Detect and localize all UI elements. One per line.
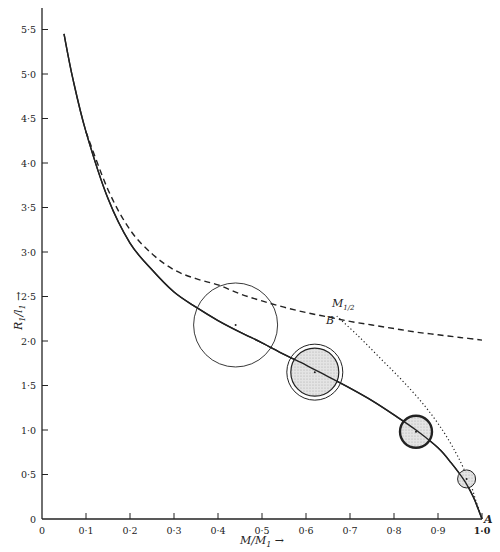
x-tick-label: 0 xyxy=(39,525,45,536)
y-tick-label: 1·5 xyxy=(21,380,36,391)
chart: 00·10·20·30·40·50·60·70·80·91·000·51·01·… xyxy=(0,0,500,552)
y-tick-label: 3·0 xyxy=(21,247,36,258)
x-tick-label: 0·4 xyxy=(210,525,225,536)
y-tick-label: 0·5 xyxy=(21,469,36,480)
axes: 00·10·20·30·40·50·60·70·80·91·000·51·01·… xyxy=(21,8,491,536)
circles xyxy=(64,34,482,519)
svg-text:R1/l1 →: R1/l1 → xyxy=(12,292,27,331)
annotation-b: B xyxy=(325,314,334,327)
annotation-m-half: M1/2 xyxy=(331,297,355,312)
y-tick-label: 1·0 xyxy=(21,425,36,436)
circle-center-dot xyxy=(466,478,468,480)
x-tick-label: 0·3 xyxy=(166,525,181,536)
x-axis-title: M/M1 → xyxy=(239,534,284,549)
circle-center-dot xyxy=(235,324,237,326)
x-tick-label: 0·2 xyxy=(122,525,137,536)
y-tick-label: 5·0 xyxy=(21,69,36,80)
y-tick-label: 2·0 xyxy=(21,336,36,347)
x-tick-label: 0·8 xyxy=(386,525,401,536)
y-tick-label: 4·5 xyxy=(21,113,36,124)
y-tick-label: 0 xyxy=(30,514,36,525)
dashed-curve xyxy=(86,132,482,340)
circle-center-dot xyxy=(314,371,316,373)
y-tick-label: 4·0 xyxy=(21,158,36,169)
x-tick-label: 0·1 xyxy=(78,525,93,536)
x-tick-label: 0·6 xyxy=(298,525,313,536)
y-tick-label: 3·5 xyxy=(21,202,36,213)
x-tick-label: 0·7 xyxy=(342,525,357,536)
y-axis-title: R1/l1 → xyxy=(12,292,27,331)
y-tick-label: 5·5 xyxy=(21,24,36,35)
annotation-a: A xyxy=(483,513,493,526)
x-tick-label: 1·0 xyxy=(474,525,491,536)
x-tick-label: 0·9 xyxy=(430,525,445,536)
